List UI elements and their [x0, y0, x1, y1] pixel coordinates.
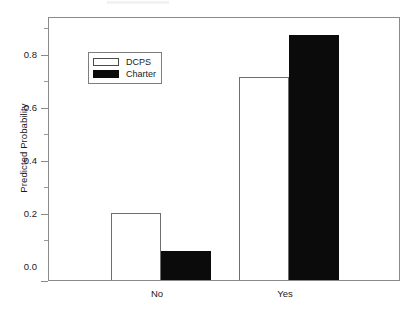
- y-tick-label-0.4: 0.4: [0, 156, 37, 166]
- y-tick-label-0.2: 0.2: [0, 209, 37, 219]
- x-tick-label-yes: Yes: [245, 288, 325, 299]
- y-tick-label-0.6: 0.6: [0, 103, 37, 113]
- scan-artifact: [107, 1, 169, 4]
- bar-chart-figure: Predicted Probability 0.8 0.6 0.4 0.2 0.…: [0, 0, 416, 310]
- open-square-swatch-icon: [93, 58, 119, 66]
- y-tick-major-0.6: [41, 108, 48, 109]
- legend-label-charter: Charter: [126, 69, 156, 80]
- filled-square-swatch-icon: [93, 70, 119, 78]
- bar-charter-no: [161, 251, 211, 280]
- bar-dcps-no: [111, 213, 161, 280]
- y-tick-major-0.0: [41, 281, 48, 282]
- y-tick-major-0.2: [41, 214, 48, 215]
- bar-dcps-yes: [239, 77, 289, 280]
- y-tick-label-0.0: 0.0: [0, 262, 37, 272]
- legend-item-charter: Charter: [93, 68, 156, 80]
- legend-label-dcps: DCPS: [126, 57, 151, 68]
- y-tick-major-0.4: [41, 161, 48, 162]
- y-tick-label-0.8: 0.8: [0, 50, 37, 60]
- bar-charter-yes: [289, 35, 339, 280]
- y-tick-major-0.8: [41, 55, 48, 56]
- legend-item-dcps: DCPS: [93, 56, 156, 68]
- x-tick-label-no: No: [117, 288, 197, 299]
- legend: DCPS Charter: [88, 52, 162, 84]
